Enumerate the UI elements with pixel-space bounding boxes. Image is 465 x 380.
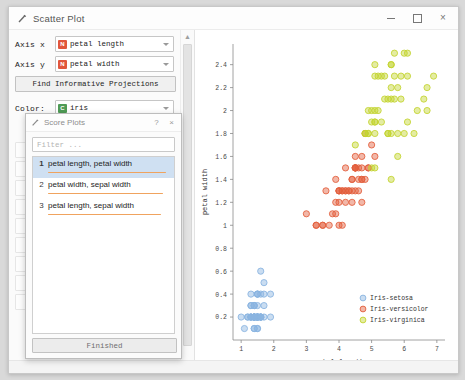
score-plots-dialog[interactable]: Score Plots ? × Filter ... 1petal length…: [25, 113, 182, 359]
data-point[interactable]: [382, 96, 388, 102]
legend-marker: [360, 295, 366, 301]
data-point[interactable]: [261, 302, 267, 308]
axis-x-value: petal length: [70, 40, 163, 48]
data-point[interactable]: [248, 291, 254, 297]
data-point[interactable]: [372, 130, 378, 136]
data-point[interactable]: [320, 222, 326, 228]
data-point[interactable]: [391, 73, 397, 79]
data-point[interactable]: [352, 142, 358, 148]
data-point[interactable]: [238, 314, 244, 320]
data-point[interactable]: [372, 165, 378, 171]
chevron-down-icon: [163, 107, 169, 110]
data-point[interactable]: [241, 325, 247, 331]
axis-y-value: petal width: [70, 60, 163, 68]
data-point[interactable]: [424, 107, 430, 113]
data-point[interactable]: [424, 85, 430, 91]
minimize-button[interactable]: [378, 8, 404, 28]
data-point[interactable]: [313, 222, 319, 228]
data-point[interactable]: [323, 188, 329, 194]
score-plot-label: petal width, sepal width: [48, 180, 170, 190]
data-point[interactable]: [414, 107, 420, 113]
data-point[interactable]: [352, 153, 358, 159]
data-point[interactable]: [303, 211, 309, 217]
data-point[interactable]: [388, 96, 394, 102]
filter-input[interactable]: Filter ...: [32, 137, 175, 152]
score-plot-item[interactable]: 1petal length, petal width: [33, 157, 174, 178]
data-point[interactable]: [251, 302, 257, 308]
data-point[interactable]: [395, 85, 401, 91]
data-point[interactable]: [398, 96, 404, 102]
scrollbar-thumb[interactable]: [183, 44, 192, 346]
data-point[interactable]: [421, 96, 427, 102]
data-point[interactable]: [382, 73, 388, 79]
data-point[interactable]: [404, 119, 410, 125]
data-point[interactable]: [267, 314, 273, 320]
data-point[interactable]: [267, 291, 273, 297]
data-point[interactable]: [375, 107, 381, 113]
data-point[interactable]: [395, 153, 401, 159]
legend-label[interactable]: Iris-versicolor: [370, 306, 429, 313]
data-point[interactable]: [388, 62, 394, 68]
data-point[interactable]: [342, 165, 348, 171]
scroll-up-arrow-icon[interactable]: ▲: [181, 30, 194, 42]
data-point[interactable]: [336, 199, 342, 205]
data-point[interactable]: [254, 291, 260, 297]
data-point[interactable]: [372, 153, 378, 159]
data-point[interactable]: [391, 50, 397, 56]
data-point[interactable]: [369, 119, 375, 125]
data-point[interactable]: [346, 188, 352, 194]
data-point[interactable]: [333, 176, 339, 182]
data-point[interactable]: [355, 188, 361, 194]
data-point[interactable]: [404, 73, 410, 79]
finished-button[interactable]: Finished: [32, 338, 177, 353]
data-point[interactable]: [339, 188, 345, 194]
legend-label[interactable]: Iris-virginica: [370, 317, 425, 324]
data-point[interactable]: [362, 130, 368, 136]
score-plot-item[interactable]: 3petal length, sepal width: [33, 199, 174, 220]
data-point[interactable]: [404, 50, 410, 56]
data-point[interactable]: [411, 130, 417, 136]
data-point[interactable]: [401, 130, 407, 136]
legend-label[interactable]: Iris-setosa: [370, 295, 413, 302]
data-point[interactable]: [388, 85, 394, 91]
data-point[interactable]: [395, 130, 401, 136]
window-title: Scatter Plot: [33, 13, 378, 24]
data-point[interactable]: [359, 165, 365, 171]
data-point[interactable]: [349, 199, 355, 205]
find-informative-projections-button[interactable]: Find Informative Projections: [15, 76, 176, 92]
data-point[interactable]: [251, 325, 257, 331]
data-point[interactable]: [258, 268, 264, 274]
data-point[interactable]: [388, 176, 394, 182]
data-point[interactable]: [365, 107, 371, 113]
data-point[interactable]: [329, 211, 335, 217]
scatter-plot-area[interactable]: 12345670.20.40.60.811.21.41.61.822.22.4p…: [195, 30, 458, 374]
score-plot-item[interactable]: 2petal width, sepal width: [33, 178, 174, 199]
data-point[interactable]: [398, 73, 404, 79]
dialog-close-button[interactable]: ×: [164, 115, 179, 130]
close-button[interactable]: ×: [430, 8, 456, 28]
data-point[interactable]: [375, 73, 381, 79]
data-point[interactable]: [349, 176, 355, 182]
data-point[interactable]: [430, 73, 436, 79]
data-point[interactable]: [261, 280, 267, 286]
data-point[interactable]: [342, 199, 348, 205]
maximize-button[interactable]: [404, 8, 430, 28]
dialog-help-button[interactable]: ?: [149, 115, 164, 130]
x-tick-label: 2: [272, 346, 276, 353]
data-point[interactable]: [326, 222, 332, 228]
data-point[interactable]: [359, 199, 365, 205]
score-plots-list[interactable]: 1petal length, petal width2petal width, …: [32, 156, 175, 334]
data-point[interactable]: [359, 153, 365, 159]
data-point[interactable]: [385, 130, 391, 136]
data-point[interactable]: [339, 222, 345, 228]
axis-y-combobox[interactable]: N petal width: [55, 56, 174, 72]
data-point[interactable]: [352, 165, 358, 171]
axis-x-combobox[interactable]: N petal length: [55, 36, 174, 52]
data-point[interactable]: [372, 62, 378, 68]
data-point[interactable]: [369, 142, 375, 148]
control-panel-scrollbar[interactable]: ▲ ▼: [180, 30, 194, 374]
data-point[interactable]: [362, 176, 368, 182]
data-point[interactable]: [378, 119, 384, 125]
data-point[interactable]: [251, 314, 257, 320]
data-point[interactable]: [355, 176, 361, 182]
